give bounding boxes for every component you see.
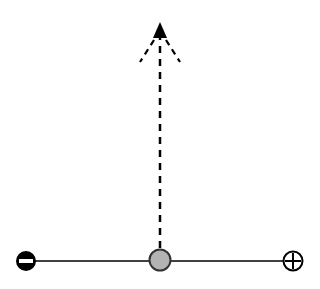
arrow-up-icon [153, 22, 167, 38]
spread-line-right [166, 40, 180, 62]
spread-line-left [140, 40, 154, 62]
charge-particle [150, 250, 171, 271]
charge-field-diagram [0, 0, 320, 289]
negative-terminal [16, 251, 36, 271]
positive-terminal [284, 252, 303, 271]
minus-icon [19, 259, 33, 263]
diagram-canvas: − + [0, 0, 320, 289]
